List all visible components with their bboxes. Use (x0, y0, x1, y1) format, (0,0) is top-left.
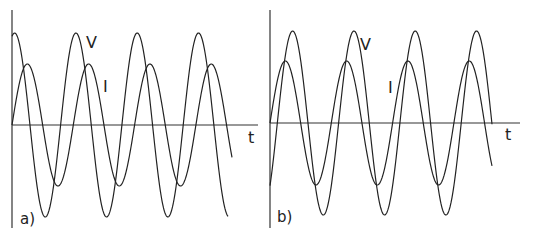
panel-label: b) (277, 208, 292, 226)
v-label: V (86, 33, 97, 52)
i-label: I (103, 77, 108, 96)
t-label: t (248, 128, 254, 147)
t-label: t (505, 125, 511, 144)
panel-label: a) (20, 210, 35, 228)
panel-b: V I t b) (270, 10, 520, 228)
phase-diagram: V I t a) V I t b) (0, 0, 534, 237)
v-label: V (360, 35, 371, 54)
panel-a: V I t a) (12, 10, 258, 228)
i-label: I (388, 78, 393, 97)
